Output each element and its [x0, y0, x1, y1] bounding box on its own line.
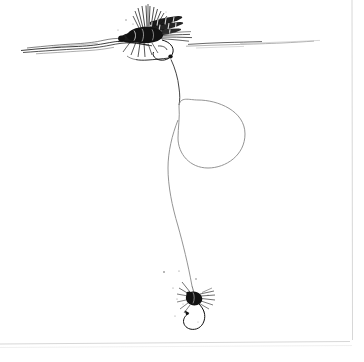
tippet-loop: [178, 99, 245, 168]
nymph-hook: [184, 304, 205, 329]
ink-drawing: [0, 0, 364, 362]
waterline-right: [186, 40, 320, 48]
tippet-lower: [168, 120, 194, 293]
tippet-upper: [127, 56, 180, 105]
dry-fly: [118, 4, 192, 60]
illustration-canvas: Dry-Dropper Fly Rig: [0, 0, 364, 362]
page-border: [0, 0, 353, 348]
dry-fly-body: [118, 27, 163, 43]
nymph-hackle: [200, 288, 216, 309]
dropper-nymph: [177, 282, 215, 329]
